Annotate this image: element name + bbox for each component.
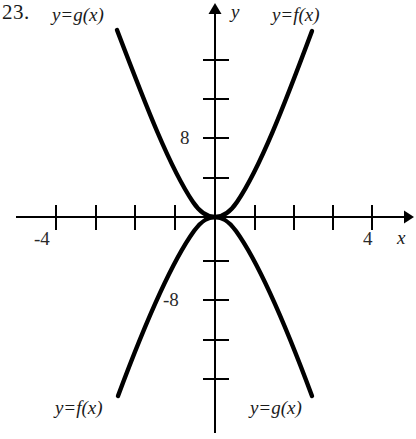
curve-label-bottom-left: y=f(x) — [55, 398, 103, 417]
graph-canvas — [0, 0, 416, 439]
curve-label-operator: = — [63, 397, 76, 418]
curve-label-operator: = — [60, 4, 73, 25]
y-tick-label-positive-8: 8 — [180, 128, 190, 147]
curve-label-function: f(x) — [293, 4, 319, 25]
curve-label-function: f(x) — [76, 397, 102, 418]
curve-label-top-right: y=f(x) — [272, 5, 320, 24]
x-tick-label-negative-4: -4 — [34, 229, 50, 248]
x-tick-label-positive-4: 4 — [363, 229, 373, 248]
curve-label-function: g(x) — [73, 4, 104, 25]
x-axis-label: x — [397, 228, 405, 247]
math-figure: 23. y=g(x) y=f(x) y=f(x) y=g(x) y x -4 4… — [0, 0, 416, 439]
curve-label-top-left: y=g(x) — [52, 5, 104, 24]
y-axis-label: y — [231, 2, 239, 21]
problem-number: 23. — [2, 2, 30, 23]
curve-label-bottom-right: y=g(x) — [250, 398, 302, 417]
curve-label-operator: = — [280, 4, 293, 25]
curve-label-function: g(x) — [271, 397, 302, 418]
curve-label-operator: = — [258, 397, 271, 418]
y-tick-label-negative-8: -8 — [163, 290, 179, 309]
